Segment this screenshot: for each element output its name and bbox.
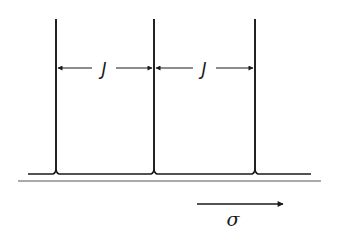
j-spacing-1: J: [58, 59, 152, 79]
spectrum-trace: [28, 19, 311, 174]
j-label-1: J: [98, 59, 106, 79]
j-label-2: J: [198, 59, 206, 79]
j-spacing-2: J: [156, 59, 253, 79]
spectrum-diagram: J J σ: [0, 0, 351, 235]
sigma-axis-label: σ: [227, 208, 241, 230]
baseline-trace: [28, 19, 311, 174]
